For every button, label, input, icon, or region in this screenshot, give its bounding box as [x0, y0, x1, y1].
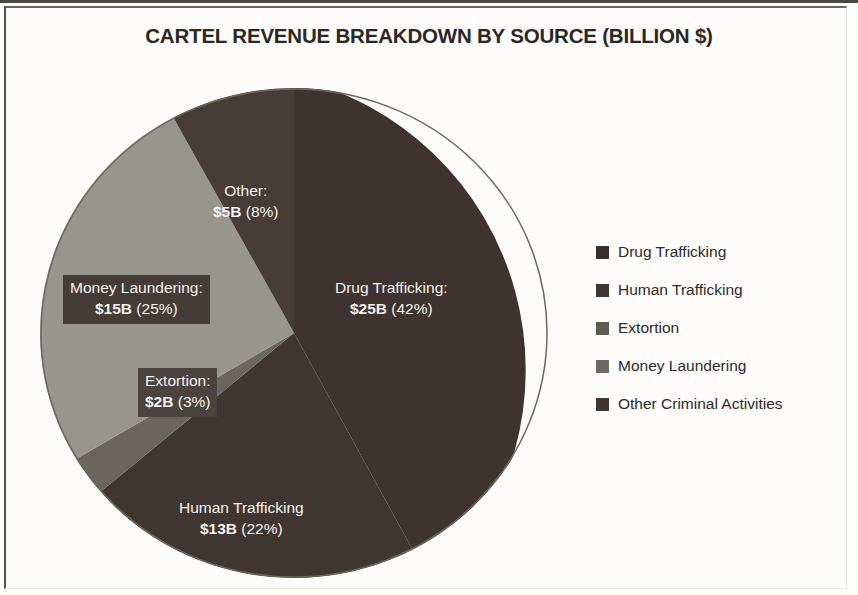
- slice-label-other-value: $5B: [213, 203, 241, 220]
- legend-item-money-laundering[interactable]: Money Laundering: [596, 347, 836, 385]
- slice-label-extortion-percent: (3%): [178, 393, 211, 410]
- slice-label-human-trafficking: Human Trafficking $13B (22%): [172, 495, 311, 544]
- slice-label-extortion-value: $2B: [145, 393, 173, 410]
- legend-swatch-human-trafficking-icon: [596, 284, 609, 297]
- slice-label-money-laundering-value: $15B: [95, 300, 132, 317]
- legend-swatch-extortion-icon: [596, 322, 609, 335]
- legend-label-other-criminal-activities: Other Criminal Activities: [618, 395, 783, 413]
- page-top-rule: [0, 0, 858, 3]
- slice-label-human-trafficking-name: Human Trafficking: [179, 498, 304, 519]
- slice-label-other-name: Other:: [213, 181, 278, 202]
- legend-label-extortion: Extortion: [618, 319, 679, 337]
- slice-label-drug-trafficking: Drug Trafficking: $25B (42%): [328, 275, 455, 324]
- legend-swatch-other-criminal-activities-icon: [596, 398, 609, 411]
- slice-label-extortion: Extortion: $2B (3%): [138, 368, 217, 417]
- legend-label-drug-trafficking: Drug Trafficking: [618, 243, 726, 261]
- slice-label-human-trafficking-value: $13B: [200, 520, 237, 537]
- slice-label-money-laundering-percent: (25%): [136, 300, 177, 317]
- slice-label-money-laundering-name: Money Laundering:: [70, 278, 203, 299]
- legend-item-drug-trafficking[interactable]: Drug Trafficking: [596, 233, 836, 271]
- legend-swatch-drug-trafficking-icon: [596, 246, 609, 259]
- slice-label-drug-trafficking-percent: (42%): [391, 300, 432, 317]
- slice-label-money-laundering: Money Laundering: $15B (25%): [63, 275, 210, 324]
- legend-label-human-trafficking: Human Trafficking: [618, 281, 743, 299]
- slice-label-other-percent: (8%): [246, 203, 279, 220]
- legend-item-other-criminal-activities[interactable]: Other Criminal Activities: [596, 385, 836, 423]
- page-title: CARTEL REVENUE BREAKDOWN BY SOURCE (BILL…: [0, 24, 858, 48]
- chart-legend: Drug Trafficking Human Trafficking Extor…: [596, 233, 836, 423]
- legend-item-human-trafficking[interactable]: Human Trafficking: [596, 271, 836, 309]
- chart-page: CARTEL REVENUE BREAKDOWN BY SOURCE (BILL…: [0, 0, 858, 595]
- slice-label-other: Other: $5B (8%): [206, 178, 285, 227]
- slice-label-human-trafficking-percent: (22%): [241, 520, 282, 537]
- legend-label-money-laundering: Money Laundering: [618, 357, 746, 375]
- legend-swatch-money-laundering-icon: [596, 360, 609, 373]
- legend-item-extortion[interactable]: Extortion: [596, 309, 836, 347]
- slice-label-drug-trafficking-value: $25B: [350, 300, 387, 317]
- slice-label-extortion-name: Extortion:: [145, 371, 210, 392]
- slice-label-drug-trafficking-name: Drug Trafficking:: [335, 278, 448, 299]
